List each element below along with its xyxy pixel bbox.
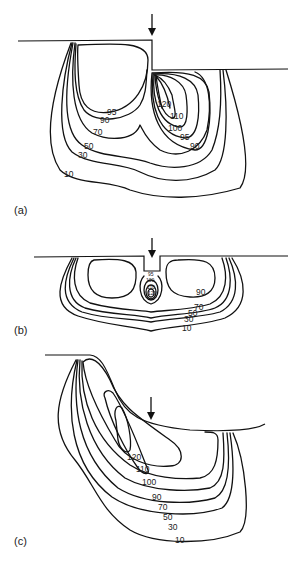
panel-label-b: (b) bbox=[14, 324, 27, 336]
label-90-left: 90 bbox=[100, 115, 110, 125]
label-50: 50 bbox=[163, 512, 173, 522]
label-90: 90 bbox=[152, 492, 162, 502]
surface-line bbox=[18, 40, 288, 70]
contour-figure: 120 110 100 95 90 95 90 70 50 30 10 (a) … bbox=[0, 0, 299, 565]
panel-c: 120 110 100 90 70 50 30 10 (c) bbox=[14, 355, 265, 547]
label-110: 110 bbox=[170, 111, 184, 121]
label-100: 100 bbox=[142, 477, 156, 487]
panel-b: 95 100 110 120 90 70 50 30 10 (b) bbox=[14, 238, 288, 336]
contour-95-left bbox=[78, 44, 148, 113]
label-110: 110 bbox=[136, 464, 150, 474]
label-100: 100 bbox=[146, 277, 155, 283]
panel-a: 120 110 100 95 90 95 90 70 50 30 10 (a) bbox=[14, 14, 288, 216]
heat-source-arrow-icon bbox=[148, 238, 156, 258]
label-30: 30 bbox=[168, 522, 178, 532]
label-90-right: 90 bbox=[190, 141, 200, 151]
contour-90-left bbox=[88, 259, 136, 298]
label-10: 10 bbox=[64, 169, 74, 179]
heat-source-arrow-icon bbox=[148, 14, 156, 36]
label-30: 30 bbox=[78, 150, 88, 160]
label-10: 10 bbox=[182, 323, 192, 333]
heat-source-arrow-icon bbox=[147, 397, 155, 420]
panel-label-c: (c) bbox=[14, 535, 27, 547]
label-90: 90 bbox=[196, 287, 206, 297]
label-95-right: 95 bbox=[180, 132, 190, 142]
label-120: 120 bbox=[148, 290, 157, 296]
contour-100 bbox=[83, 359, 181, 466]
contour-90 bbox=[82, 361, 218, 479]
label-10: 10 bbox=[175, 535, 185, 545]
surface-line bbox=[45, 355, 265, 431]
panel-label-a: (a) bbox=[14, 204, 27, 216]
label-70: 70 bbox=[93, 127, 103, 137]
contour-90-right bbox=[166, 260, 215, 298]
label-70: 70 bbox=[158, 502, 168, 512]
label-120: 120 bbox=[127, 452, 141, 462]
label-120: 120 bbox=[157, 99, 171, 109]
